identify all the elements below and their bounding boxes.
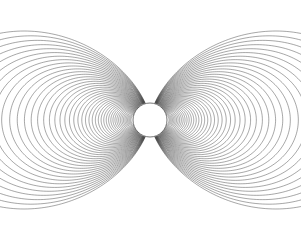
dipole-field-svg <box>0 0 301 239</box>
central-body-circle <box>133 103 167 137</box>
dipole-field-figure <box>0 0 301 239</box>
central-body-group <box>133 103 167 137</box>
